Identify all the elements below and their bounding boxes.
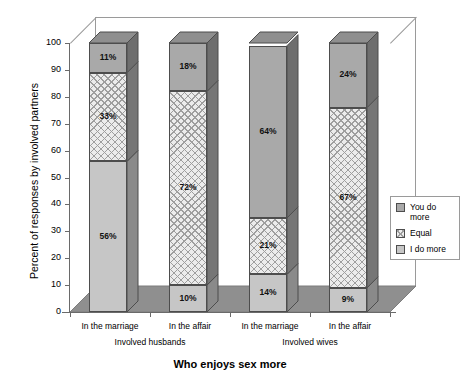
y-tick-label: 0 xyxy=(35,307,61,316)
legend-swatch-icon-equal xyxy=(396,229,405,238)
bar-segment xyxy=(169,43,207,91)
x-category-label: In the affair xyxy=(300,321,400,331)
y-tick-label: 20 xyxy=(35,253,61,262)
legend-swatch-icon-you-do-more xyxy=(396,203,405,212)
legend-item-i-do-more: I do more xyxy=(396,244,454,254)
bar-segment xyxy=(89,43,127,73)
y-tick-label: 100 xyxy=(35,38,61,47)
legend-item-equal: Equal xyxy=(396,228,454,238)
y-tick-label: 90 xyxy=(35,65,61,74)
legend-label-you-do-more: You do more xyxy=(410,202,452,222)
bar-segment xyxy=(249,218,287,274)
legend-label-i-do-more: I do more xyxy=(410,244,452,254)
bar-segment xyxy=(169,285,207,312)
x-group-label: Involved wives xyxy=(250,337,370,347)
y-tick-label: 60 xyxy=(35,146,61,155)
bar-segment xyxy=(329,288,367,312)
legend-swatch-icon-i-do-more xyxy=(396,245,405,254)
x-tick-mark xyxy=(150,312,151,317)
bar-segment xyxy=(249,274,287,312)
bar-column: 56%33%11% xyxy=(89,0,127,375)
y-tick-label: 40 xyxy=(35,199,61,208)
x-axis-title: Who enjoys sex more xyxy=(10,358,450,370)
bar-segment xyxy=(89,73,127,162)
y-tick-label: 70 xyxy=(35,119,61,128)
bar-column: 14%21%64% xyxy=(249,0,287,375)
bar-column: 9%67%24% xyxy=(329,0,367,375)
x-tick-mark xyxy=(390,312,391,317)
bar-segment xyxy=(169,91,207,285)
x-tick-mark xyxy=(230,312,231,317)
legend-label-equal: Equal xyxy=(410,228,452,238)
y-tick-label: 10 xyxy=(35,280,61,289)
bar-segment xyxy=(249,46,287,218)
stacked-bar-chart: Percent of responses by involved partner… xyxy=(0,0,466,375)
bar-column: 10%72%18% xyxy=(169,0,207,375)
x-tick-mark xyxy=(70,312,71,317)
bar-segment xyxy=(329,43,367,108)
y-tick-label: 80 xyxy=(35,92,61,101)
chart-legend: You do more Equal I do more xyxy=(390,196,460,260)
bar-segment xyxy=(329,108,367,288)
plot-frame-line xyxy=(69,43,70,312)
y-tick-label: 50 xyxy=(35,173,61,182)
bar-segment xyxy=(89,161,127,312)
x-group-label: Involved husbands xyxy=(90,337,210,347)
y-tick-label: 30 xyxy=(35,226,61,235)
x-tick-mark xyxy=(310,312,311,317)
legend-item-you-do-more: You do more xyxy=(396,202,454,222)
